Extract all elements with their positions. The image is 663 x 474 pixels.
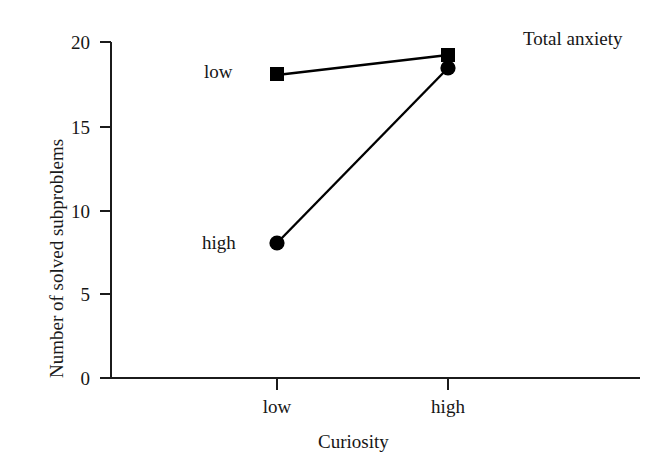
y-tick-label-15: 15 [58,118,90,137]
y-axis-ticks [100,42,111,378]
series-low-marker-1 [441,48,455,62]
x-tick-label-high: high [418,397,478,416]
y-tick-label-20: 20 [58,33,90,52]
series-low [270,48,455,81]
series-label-high: high [202,233,236,252]
chart-figure: 20 15 10 5 0 low high Curiosity Number o… [0,0,663,474]
x-tick-label-low: low [247,397,307,416]
series-high-marker-0 [269,235,284,250]
chart-title: Total anxiety [523,29,622,48]
series-label-low: low [204,62,233,81]
series-low-marker-0 [270,67,284,81]
chart-canvas [0,0,663,474]
y-tick-label-0: 0 [58,369,90,388]
axis-lines [111,42,640,378]
y-tick-label-5: 5 [58,285,90,304]
x-axis-ticks [277,378,448,390]
series-high [269,60,455,250]
x-axis-title: Curiosity [318,432,389,451]
series-high-marker-1 [440,60,455,75]
y-tick-label-10: 10 [58,202,90,221]
series-high-line [277,68,448,243]
series-low-line [277,55,448,75]
